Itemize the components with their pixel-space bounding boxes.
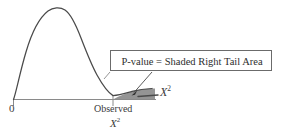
origin-label: 0 bbox=[9, 103, 15, 114]
x-axis-symbol-label: X2 bbox=[160, 85, 171, 98]
observed-symbol-exponent: 2 bbox=[117, 116, 120, 123]
observed-symbol-base: X bbox=[110, 117, 117, 129]
callout-leader-stub bbox=[104, 72, 110, 79]
observed-symbol-label: X2 bbox=[110, 117, 120, 129]
pvalue-callout-box: P-value = Shaded Right Tail Area bbox=[110, 50, 272, 71]
axis-symbol-exponent: 2 bbox=[167, 84, 171, 93]
chi-square-pvalue-figure: P-value = Shaded Right Tail Area 0 Obser… bbox=[0, 0, 282, 138]
observed-label: Observed bbox=[94, 104, 132, 114]
pvalue-callout-text: P-value = Shaded Right Tail Area bbox=[111, 51, 273, 72]
